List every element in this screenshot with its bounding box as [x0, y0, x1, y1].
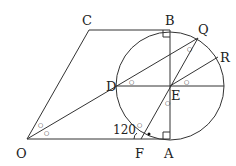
label-Q: Q — [198, 22, 209, 37]
angle-value-label: 120 — [113, 123, 136, 137]
segment-OC — [27, 30, 89, 139]
label-D: D — [106, 79, 116, 94]
geometry-diagram: ○ ○ ○ ○ ○ ○ ○ O F A C B Q R D E 120 — [0, 0, 236, 166]
label-O: O — [16, 146, 27, 161]
mark-E-R: ○ — [184, 78, 189, 85]
dot-on-arc — [148, 133, 151, 136]
label-A: A — [163, 146, 174, 161]
right-angle-A — [163, 132, 170, 139]
label-R: R — [220, 50, 231, 65]
label-F: F — [135, 146, 144, 161]
mark-O-2: ○ — [44, 129, 49, 136]
mark-arc: ○ — [137, 121, 142, 128]
segment-ER — [170, 57, 218, 86]
right-angle-B — [163, 30, 170, 37]
label-B: B — [165, 13, 175, 28]
label-E: E — [171, 88, 181, 103]
mark-E-down: ○ — [165, 99, 170, 106]
mark-D: ○ — [129, 78, 134, 85]
label-C: C — [82, 13, 92, 28]
mark-Q: ○ — [187, 45, 192, 52]
mark-O-1: ○ — [38, 121, 43, 128]
